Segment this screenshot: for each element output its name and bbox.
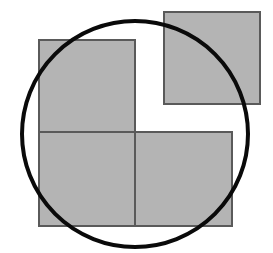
squares-and-circle-figure bbox=[0, 0, 273, 253]
square-top-right bbox=[164, 12, 260, 104]
squares-group bbox=[39, 12, 260, 226]
diagram-canvas bbox=[0, 0, 273, 253]
